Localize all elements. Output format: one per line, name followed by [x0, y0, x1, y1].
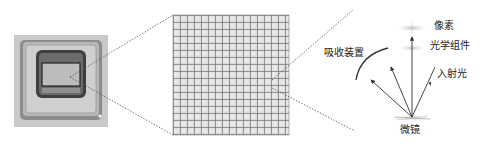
label-optics: 光学组件 — [430, 41, 470, 51]
reflected-ray-mid — [391, 67, 412, 117]
micromirror-array — [173, 15, 289, 135]
chip-photo — [14, 35, 108, 127]
figure-canvas: 像素 光学组件 吸收装置 入射光 微镜 — [0, 0, 483, 146]
label-micromirror: 微镜 — [400, 125, 420, 135]
incident-ray — [412, 67, 435, 117]
reflected-ray-absorbed — [371, 80, 412, 117]
label-incident-light: 入射光 — [437, 69, 467, 79]
optical-path — [356, 22, 435, 121]
label-absorber: 吸收装置 — [324, 48, 364, 58]
label-pixel: 像素 — [434, 21, 454, 31]
